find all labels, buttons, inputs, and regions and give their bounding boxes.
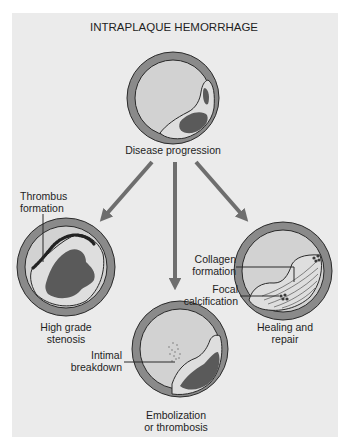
- arrow-to-stenosis: [104, 162, 152, 217]
- callout-calcification-line1: Focal: [170, 283, 238, 295]
- callout-collagen: Collagen formation: [186, 253, 236, 277]
- label-embolization: Embolization or thrombosis: [144, 409, 208, 433]
- callout-intimal-line1: Intimal: [60, 349, 122, 361]
- callout-thrombus: Thrombus formation: [20, 190, 67, 214]
- vessel-high-grade-stenosis: [17, 214, 115, 316]
- diagram-artwork: [0, 0, 347, 443]
- label-healing-repair: Healing and repair: [257, 321, 313, 345]
- arrow-to-healing: [196, 162, 244, 217]
- vessel-disease-progression: [127, 52, 219, 144]
- label-high-grade-stenosis: High grade stenosis: [40, 321, 91, 345]
- callout-calcification-line2: calcification: [170, 295, 238, 307]
- callout-thrombus-line1: Thrombus: [20, 190, 67, 202]
- label-embolization-line1: Embolization: [144, 409, 208, 421]
- callout-calcification: Focal calcification: [170, 283, 238, 307]
- label-healing-line1: Healing and: [257, 321, 313, 333]
- callout-collagen-line1: Collagen: [186, 253, 236, 265]
- label-stenosis-line1: High grade: [40, 321, 91, 333]
- callout-intimal-breakdown: Intimal breakdown: [60, 349, 122, 373]
- label-stenosis-line2: stenosis: [40, 333, 91, 345]
- label-healing-line2: repair: [257, 333, 313, 345]
- callout-collagen-line2: formation: [186, 265, 236, 277]
- vessel-healing-repair: [234, 222, 332, 320]
- callout-thrombus-line2: formation: [20, 202, 67, 214]
- figure-title: INTRAPLAQUE HEMORRHAGE: [90, 21, 258, 33]
- label-disease-progression: Disease progression: [125, 144, 221, 156]
- vessel-embolization: [124, 301, 228, 397]
- callout-intimal-line2: breakdown: [60, 361, 122, 373]
- label-embolization-line2: or thrombosis: [144, 421, 208, 433]
